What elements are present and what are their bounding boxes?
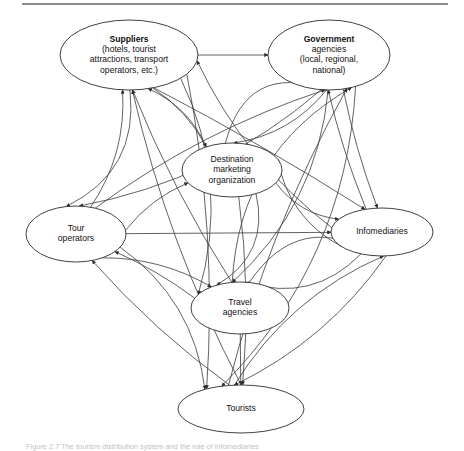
destination-marketing-organization-label-line: organization [209, 175, 256, 185]
figure-caption: Figure 2.7 The tourism distribution syst… [26, 442, 446, 451]
edge-tourists-to-suppliers [132, 90, 241, 385]
destination-marketing-organization-label-line: Destination [211, 154, 254, 164]
travel-agencies-label-line: agencies [223, 307, 257, 317]
suppliers-label-line: Suppliers [109, 34, 148, 44]
tour-operators-label-line: operators [58, 233, 94, 243]
edge-travelagencies-to-touroperators [115, 252, 195, 299]
tour-operators-label-line: Tour [68, 223, 85, 233]
edge-touroperators-to-travelagencies [102, 258, 211, 287]
node-suppliers: Suppliers(hotels, touristattractions, tr… [60, 20, 198, 90]
tourists-label-line: Tourists [226, 403, 256, 413]
government-agencies-label-line: (local, regional, [300, 54, 358, 64]
edge-suppliers-to-touroperators [66, 90, 131, 207]
suppliers-label-line: (hotels, tourist [102, 44, 157, 54]
node-tour-operators: Touroperators [26, 206, 126, 262]
destination-marketing-organization-label-line: marketing [213, 164, 251, 174]
node-tourists: Tourists [178, 385, 304, 433]
edge-dmo-to-infomediaries [276, 183, 339, 219]
suppliers-label-line: attractions, transport [90, 54, 169, 64]
edge-touroperators-to-tourists [120, 247, 205, 389]
edge-suppliers-to-dmo [153, 88, 207, 147]
government-agencies-label-line: national) [313, 65, 346, 75]
node-travel-agencies: Travelagencies [191, 282, 289, 334]
node-destination-marketing-organization: Destinationmarketingorganization [182, 143, 282, 197]
infomediaries-label-line: Infomediaries [356, 226, 408, 236]
node-government-agencies: Governmentagencies(local, regional,natio… [268, 20, 390, 90]
node-infomediaries: Infomediaries [331, 208, 433, 256]
travel-agencies-label-line: Travel [228, 297, 252, 307]
government-agencies-label-line: agencies [312, 44, 346, 54]
suppliers-label-line: operators, etc.) [100, 65, 158, 75]
edge-touroperators-to-suppliers [91, 90, 123, 207]
node-layer: Suppliers(hotels, touristattractions, tr… [26, 20, 433, 433]
edge-touroperators-infomediaries-bidirectional [126, 232, 331, 233]
edge-government-to-dmo [234, 90, 327, 143]
government-agencies-label-line: Government [304, 34, 355, 44]
edge-tourists-to-government [228, 88, 346, 385]
